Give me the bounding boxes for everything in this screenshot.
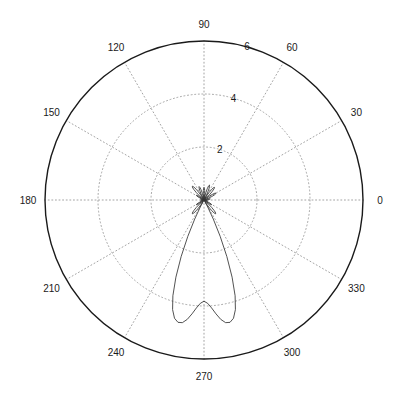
polar-chart-canvas: 0306090120150180210240270300330 246 [0, 0, 400, 402]
angle-tick-label-30: 30 [351, 107, 363, 118]
angle-tick-label-0: 0 [377, 195, 383, 206]
angle-tick-label-270: 270 [196, 371, 213, 382]
grid-spoke-120 [125, 62, 205, 200]
angle-tick-label-120: 120 [108, 42, 125, 53]
radial-tick-label-4: 4 [231, 93, 237, 104]
grid-spoke-30 [204, 121, 342, 201]
angle-tick-label-300: 300 [284, 347, 301, 358]
grid-spoke-210 [66, 200, 204, 280]
grid-layer [45, 41, 363, 359]
angle-tick-label-180: 180 [20, 195, 37, 206]
angular-grid-spokes [45, 41, 363, 359]
grid-spoke-60 [204, 62, 284, 200]
angle-tick-label-240: 240 [108, 347, 125, 358]
radial-tick-label-6: 6 [244, 41, 250, 52]
grid-spoke-300 [204, 200, 284, 338]
polar-plot-figure: 0306090120150180210240270300330 246 [0, 0, 400, 402]
angle-tick-label-150: 150 [43, 107, 60, 118]
radial-tick-label-2: 2 [217, 144, 223, 155]
radial-tick-labels: 246 [217, 41, 250, 154]
grid-spoke-240 [125, 200, 205, 338]
angle-tick-label-330: 330 [348, 283, 365, 294]
grid-spoke-330 [204, 200, 342, 280]
angle-tick-label-90: 90 [198, 19, 210, 30]
grid-spoke-150 [66, 121, 204, 201]
angle-tick-label-210: 210 [43, 283, 60, 294]
angle-tick-label-60: 60 [286, 42, 298, 53]
